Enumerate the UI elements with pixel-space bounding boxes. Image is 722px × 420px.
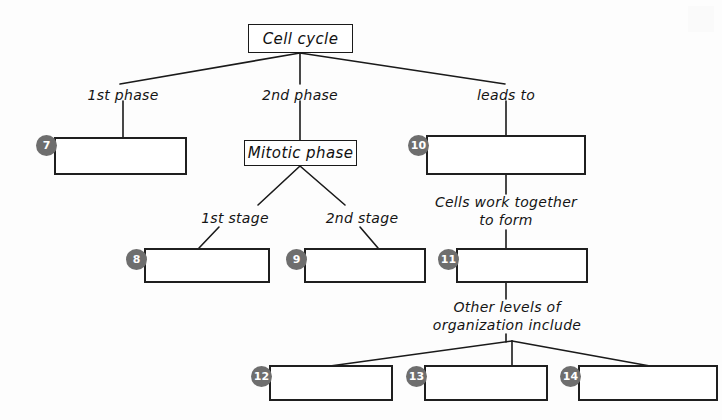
- edge-label-second-stage: 2nd stage: [312, 210, 412, 228]
- concept-map-worksheet: Cell cycle 1st phase 2nd phase leads to …: [0, 0, 722, 420]
- marker-12: 12: [251, 366, 272, 387]
- answer-box-13[interactable]: [424, 365, 548, 401]
- scan-artifact: [688, 6, 714, 32]
- answer-box-7[interactable]: [54, 137, 187, 175]
- answer-box-12[interactable]: [269, 365, 393, 401]
- node-mitotic-phase: Mitotic phase: [244, 140, 357, 166]
- node-mitotic-phase-label: Mitotic phase: [248, 144, 354, 162]
- answer-box-8[interactable]: [144, 248, 270, 283]
- marker-8: 8: [126, 249, 147, 270]
- marker-14: 14: [560, 366, 581, 387]
- answer-box-14[interactable]: [578, 365, 718, 401]
- answer-box-11[interactable]: [456, 248, 588, 283]
- marker-11: 11: [438, 249, 459, 270]
- marker-10: 10: [408, 135, 429, 156]
- marker-9: 9: [286, 249, 307, 270]
- edge-label-first-stage: 1st stage: [185, 210, 285, 228]
- edge-label-second-phase: 2nd phase: [250, 87, 350, 105]
- marker-13: 13: [406, 366, 427, 387]
- answer-box-10[interactable]: [426, 135, 586, 175]
- edge-label-cells-work-together: Cells work together to form: [426, 194, 586, 229]
- edge-label-first-phase: 1st phase: [73, 87, 173, 105]
- edge-label-leads-to: leads to: [456, 87, 556, 105]
- node-cell-cycle: Cell cycle: [248, 24, 353, 53]
- node-cell-cycle-label: Cell cycle: [263, 30, 339, 48]
- edge-label-other-levels: Other levels of organization include: [422, 299, 592, 334]
- marker-7: 7: [36, 135, 57, 156]
- answer-box-9[interactable]: [304, 248, 426, 283]
